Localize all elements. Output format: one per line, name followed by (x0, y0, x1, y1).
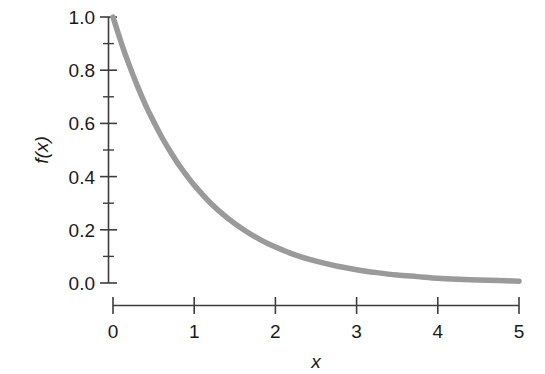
chart-figure: 1.0 0.8 0.6 0.4 0.2 0.0 f(x) 0 1 2 3 4 (0, 0, 545, 374)
x-axis-title: x (310, 351, 322, 372)
y-tick-label-0: 0.0 (69, 273, 95, 294)
x-tick-label-5: 5 (514, 321, 525, 342)
y-tick-label-3: 0.6 (69, 113, 95, 134)
y-tick-label-4: 0.8 (69, 60, 95, 81)
exponential-decay-chart: 1.0 0.8 0.6 0.4 0.2 0.0 f(x) 0 1 2 3 4 (0, 0, 545, 374)
x-tick-label-4: 4 (433, 321, 444, 342)
y-tick-label-2: 0.4 (69, 167, 96, 188)
y-axis-title: f(x) (31, 136, 52, 163)
y-tick-label-5: 1.0 (69, 7, 95, 28)
x-tick-label-1: 1 (189, 321, 200, 342)
x-tick-label-3: 3 (351, 321, 362, 342)
y-tick-label-1: 0.2 (69, 220, 95, 241)
x-tick-label-0: 0 (108, 321, 119, 342)
x-tick-label-2: 2 (270, 321, 281, 342)
